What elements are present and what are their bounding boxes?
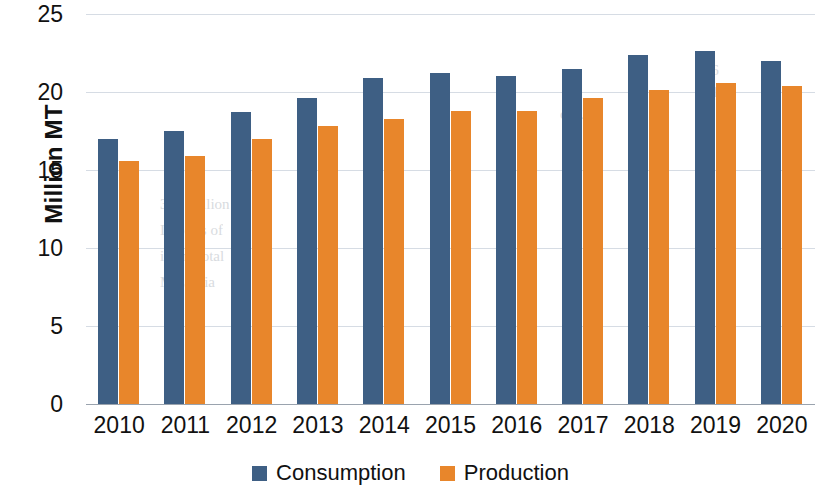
x-axis-tick-2015: 2015 [416,412,486,439]
legend-label: Production [464,462,569,484]
x-axis-tick-2012: 2012 [217,412,287,439]
y-axis-tick-25: 25 [3,1,63,28]
bar-consumption-2020[interactable] [761,61,781,404]
x-axis-tick-2013: 2013 [283,412,353,439]
bar-consumption-2017[interactable] [562,69,582,404]
y-axis-tick-0: 0 [3,391,63,418]
y-axis-tick-5: 5 [3,313,63,340]
bar-group-2017 [562,14,604,404]
gridline-0 [86,404,815,405]
bar-consumption-2016[interactable] [496,76,516,404]
bar-group-2011 [164,14,206,404]
x-axis-tick-2016: 2016 [482,412,552,439]
bar-group-2013 [297,14,339,404]
x-axis-labels: 2010201120122013201420152016201720182019… [86,412,815,444]
bar-production-2019[interactable] [716,83,736,404]
bar-group-2016 [496,14,538,404]
bar-consumption-2019[interactable] [695,51,715,404]
chart-legend: ConsumptionProduction [0,462,821,484]
x-axis-tick-2017: 2017 [548,412,618,439]
bar-production-2011[interactable] [185,156,205,404]
x-axis-tick-2020: 2020 [747,412,817,439]
bar-consumption-2014[interactable] [363,78,383,404]
bar-production-2013[interactable] [318,126,338,404]
y-axis-tick-15: 15 [3,157,63,184]
bar-production-2014[interactable] [384,119,404,404]
bar-consumption-2015[interactable] [430,73,450,404]
legend-item-production[interactable]: Production [440,462,569,484]
bar-production-2016[interactable] [517,111,537,404]
y-axis-tick-20: 20 [3,79,63,106]
plot-area: 2520151050 [86,14,815,404]
legend-item-consumption[interactable]: Consumption [252,462,406,484]
bar-group-2012 [231,14,273,404]
y-axis-tick-10: 10 [3,235,63,262]
x-axis-tick-2018: 2018 [614,412,684,439]
bar-group-2018 [628,14,670,404]
bar-production-2010[interactable] [119,161,139,404]
bar-production-2018[interactable] [649,90,669,404]
x-axis-tick-2014: 2014 [349,412,419,439]
bar-consumption-2018[interactable] [628,55,648,404]
bar-production-2017[interactable] [583,98,603,404]
bar-production-2012[interactable] [252,139,272,404]
bar-consumption-2010[interactable] [98,139,118,404]
bar-group-2019 [695,14,737,404]
x-axis-tick-2019: 2019 [681,412,751,439]
bar-group-2014 [363,14,405,404]
bar-group-2010 [98,14,140,404]
legend-label: Consumption [276,462,406,484]
bar-group-2020 [761,14,803,404]
x-axis-tick-2011: 2011 [150,412,220,439]
bar-production-2015[interactable] [451,111,471,404]
bar-group-2015 [430,14,472,404]
bar-consumption-2013[interactable] [297,98,317,404]
bar-consumption-2011[interactable] [164,131,184,404]
bar-chart: 1.6 2.1 of ... 350 million Imports of in… [0,0,821,495]
bar-consumption-2012[interactable] [231,112,251,404]
x-axis-tick-2010: 2010 [84,412,154,439]
consumption-swatch [252,466,267,481]
bar-production-2020[interactable] [782,86,802,404]
production-swatch [440,466,455,481]
